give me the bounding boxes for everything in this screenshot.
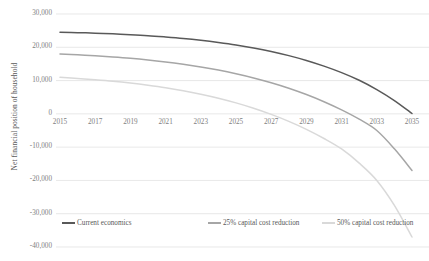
legend-label: 25% capital cost reduction [223, 219, 299, 227]
legend-swatch-icon [208, 222, 221, 224]
legend-item-0[interactable]: Current economics [62, 219, 132, 227]
chart-legend: Current economics25% capital cost reduct… [0, 219, 429, 231]
legend-label: 50% capital cost reduction [337, 219, 413, 227]
x-tick-label: 2029 [286, 118, 326, 126]
x-tick-label: 2027 [251, 118, 291, 126]
x-tick-label: 2017 [75, 118, 115, 126]
x-tick-label: 2031 [322, 118, 362, 126]
x-tick-label: 2023 [181, 118, 221, 126]
x-tick-label: 2035 [392, 118, 429, 126]
x-tick-label: 2025 [216, 118, 256, 126]
x-tick-label: 2033 [357, 118, 397, 126]
y-tick-label: 10,000 [8, 76, 52, 84]
y-tick-label: 20,000 [8, 42, 52, 50]
series-line-2 [60, 77, 412, 237]
gridlines [56, 14, 429, 247]
x-tick-label: 2019 [110, 118, 150, 126]
legend-item-1[interactable]: 25% capital cost reduction [208, 219, 299, 227]
y-tick-label: -10,000 [8, 142, 52, 150]
x-tick-label: 2015 [40, 118, 80, 126]
y-tick-label: -20,000 [8, 175, 52, 183]
series-lines [60, 32, 412, 237]
x-tick-label: 2021 [146, 118, 186, 126]
y-tick-label: -40,000 [8, 242, 52, 250]
series-line-0 [60, 32, 412, 113]
series-line-1 [60, 54, 412, 171]
legend-item-2[interactable]: 50% capital cost reduction [322, 219, 413, 227]
legend-swatch-icon [322, 222, 335, 224]
line-chart: Net financial position of household 30,0… [0, 0, 429, 261]
legend-label: Current economics [77, 219, 132, 227]
y-tick-label: 30,000 [8, 9, 52, 17]
legend-swatch-icon [62, 222, 75, 224]
y-tick-label: 0 [8, 109, 52, 117]
y-tick-label: -30,000 [8, 209, 52, 217]
